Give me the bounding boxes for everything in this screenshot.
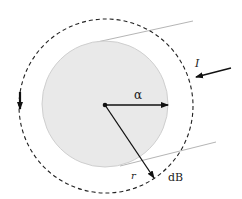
label-current: I bbox=[195, 57, 199, 70]
wire-top-edge bbox=[97, 21, 193, 42]
wire-field-diagram bbox=[0, 0, 242, 199]
label-alpha: α bbox=[134, 88, 142, 102]
label-dB: dB bbox=[168, 171, 183, 184]
current-arrow bbox=[196, 68, 231, 77]
label-r: r bbox=[131, 170, 136, 181]
